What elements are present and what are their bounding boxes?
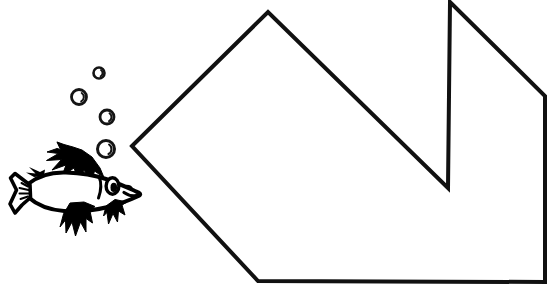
- artwork-canvas: [0, 0, 547, 287]
- bubble-4: [98, 141, 115, 158]
- bubble-3: [100, 110, 114, 124]
- bubble-1: [94, 68, 105, 79]
- bubble-2: [72, 90, 87, 105]
- fish-eye-pupil: [111, 183, 118, 192]
- line-art-illustration: [0, 0, 547, 287]
